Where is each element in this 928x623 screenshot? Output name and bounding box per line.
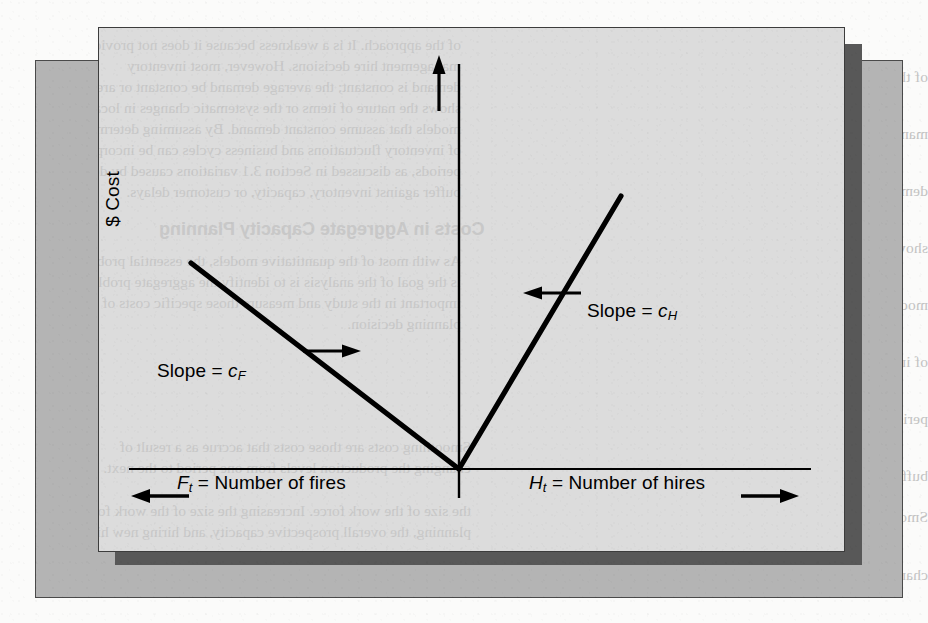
- slope-h-text: Slope =: [587, 300, 658, 321]
- slope-h-subscript: H: [668, 308, 678, 323]
- slope-h-pointer-arrow: [523, 287, 581, 300]
- slope-f-symbol: c: [228, 360, 238, 381]
- hires-text: = Number of hires: [547, 472, 706, 493]
- x-axis-right-label: Ht = Number of hires: [529, 472, 705, 495]
- figure-plot-panel: of the approach. It is a weakness becaus…: [98, 27, 845, 552]
- hiring-cost-line: [459, 196, 621, 469]
- fires-text: = Number of fires: [192, 472, 345, 493]
- x-axis-left-label: Ft = Number of fires: [177, 472, 346, 495]
- slope-f-subscript: F: [238, 368, 246, 383]
- slope-f-label: Slope = cF: [157, 360, 246, 383]
- slope-f-text: Slope =: [157, 360, 228, 381]
- slope-h-label: Slope = cH: [587, 300, 677, 323]
- slope-h-symbol: c: [658, 300, 668, 321]
- hires-symbol: H: [529, 472, 543, 493]
- y-axis-up-arrow: [433, 55, 446, 111]
- fires-symbol: F: [177, 472, 189, 493]
- figure-screenshot: of the approach. It is a weakness becaus…: [0, 0, 928, 623]
- y-axis-label: $ Cost: [102, 171, 124, 227]
- hires-right-arrow: [741, 489, 799, 503]
